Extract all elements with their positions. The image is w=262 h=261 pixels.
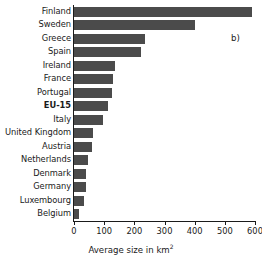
category-label: Spain [0,47,71,56]
category-label: Greece [0,34,71,43]
category-label: Italy [0,115,71,124]
category-label: Portugal [0,88,71,97]
bar [74,101,108,111]
x-axis-tick [134,221,135,225]
x-axis-tick [195,221,196,225]
category-label: Ireland [0,61,71,70]
x-axis-tick-label: 100 [89,226,119,236]
x-axis-title: Average size in km2 [0,243,262,255]
bar [74,34,145,44]
bar [74,115,103,125]
bar [74,196,84,206]
category-label: EU-15 [0,101,71,110]
x-axis-tick-label: 400 [180,226,210,236]
category-label: France [0,74,71,83]
x-axis-tick-label: 0 [59,226,89,236]
bar [74,209,79,219]
bar [74,61,115,71]
category-label: Denmark [0,169,71,178]
bar [74,88,112,98]
x-axis-tick-label: 500 [210,226,240,236]
bar [74,169,86,179]
x-axis-title-text: Average size in km [88,245,169,255]
category-label: Belgium [0,209,71,218]
bar [74,74,113,84]
bar [74,7,252,17]
x-axis-tick [104,221,105,225]
bar [74,47,141,57]
x-axis-tick [165,221,166,225]
category-label: United Kingdom [0,128,71,137]
category-label: Austria [0,142,71,151]
category-label: Sweden [0,20,71,29]
x-axis-title-superscript: 2 [170,243,174,250]
panel-label: b) [231,33,240,43]
bar-chart-panel-b: FinlandSwedenGreeceSpainIrelandFrancePor… [0,0,262,261]
plot-area [74,5,255,221]
bar [74,182,86,192]
x-axis-tick-label: 300 [150,226,180,236]
y-axis-line [73,5,74,222]
x-axis-tick-label: 600 [240,226,262,236]
x-axis-tick [225,221,226,225]
category-label: Germany [0,182,71,191]
category-label: Luxembourg [0,196,71,205]
bar [74,142,92,152]
bar [74,128,93,138]
category-label: Netherlands [0,155,71,164]
bar [74,20,195,30]
bar [74,155,88,165]
category-axis-labels: FinlandSwedenGreeceSpainIrelandFrancePor… [0,5,71,221]
category-label: Finland [0,7,71,16]
x-axis-tick-label: 200 [119,226,149,236]
x-axis-tick [255,221,256,225]
x-axis-tick [74,221,75,225]
